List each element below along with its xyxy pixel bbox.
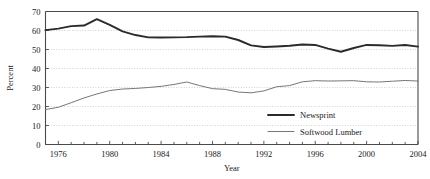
y-tick-label-20: 20 [32,102,41,112]
data-series-group [46,19,419,109]
gridlines-group [46,12,418,126]
y-tick-label-40: 40 [32,64,41,74]
legend-label-softwood-lumber: Softwood Lumber [300,127,362,137]
y-axis-tick-labels: 010203040506070 [32,7,41,150]
series-line-softwood-lumber [46,80,419,109]
x-tick-label-1980: 1980 [101,149,118,159]
x-axis-tick-labels: 19761980198419881992199620002004 [50,149,427,159]
y-tick-label-50: 50 [32,45,41,55]
y-axis-title: Percent [5,65,15,91]
legend-label-newsprint: Newsprint [300,110,336,120]
x-axis-title: Year [224,163,240,173]
x-tick-label-1992: 1992 [255,149,272,159]
y-tick-label-10: 10 [32,121,41,131]
y-tick-label-60: 60 [32,26,41,36]
series-line-newsprint [46,19,419,52]
x-tick-label-1984: 1984 [153,149,171,159]
plot-frame [46,12,419,145]
y-tick-label-70: 70 [32,7,41,17]
y-tick-label-30: 30 [32,83,41,93]
x-tick-label-1996: 1996 [307,149,324,159]
x-tick-label-1976: 1976 [50,149,67,159]
legend: NewsprintSoftwood Lumber [268,110,362,137]
x-tick-label-2004: 2004 [410,149,428,159]
x-tick-label-1988: 1988 [204,149,221,159]
line-chart: 010203040506070 197619801984198819921996… [0,0,430,179]
y-tick-label-0: 0 [36,140,40,150]
x-tick-label-2000: 2000 [358,149,375,159]
chart-container: 010203040506070 197619801984198819921996… [0,0,430,179]
